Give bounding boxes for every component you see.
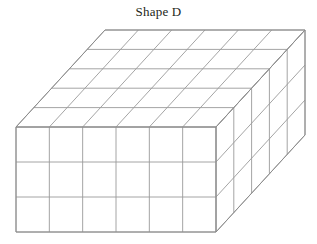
- prism-faces: [16, 30, 305, 232]
- rectangular-prism-unit-cubes-icon: [0, 0, 317, 244]
- figure-root: Shape D: [0, 0, 317, 244]
